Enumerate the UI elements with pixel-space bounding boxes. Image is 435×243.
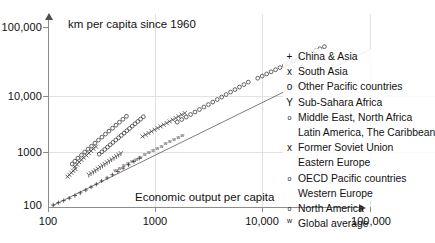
y-tick-label-100: 100	[0, 199, 42, 211]
legend-item-5[interactable]: Latin America, The Caribbean	[283, 125, 435, 140]
y-axis-arrow-icon	[45, 13, 53, 20]
chart-title: km per capita since 1960	[68, 18, 196, 30]
x-tick-label-1000: 1000	[125, 215, 185, 227]
x-tick-100	[48, 207, 49, 212]
series-6	[175, 80, 250, 124]
y-axis	[48, 19, 49, 208]
legend-item-1[interactable]: xSouth Asia	[283, 64, 435, 79]
legend-item-10[interactable]: oNorth America	[283, 201, 435, 216]
legend-label: China & Asia	[296, 51, 358, 62]
legend-marker-cross-icon: x	[283, 142, 296, 153]
legend-marker-wye-icon: Y	[283, 97, 296, 108]
svg-text:w: w	[176, 134, 180, 140]
gridline-x-10000	[262, 14, 263, 207]
x-tick-10000	[262, 207, 263, 212]
x-axis-title: Economic output per capita	[135, 191, 274, 203]
svg-text:w: w	[168, 138, 172, 144]
legend-item-3[interactable]: YSub-Sahara Africa	[283, 95, 435, 110]
svg-text:w: w	[118, 165, 122, 171]
legend-label: Middle East, North Africa	[296, 112, 412, 123]
legend: +China & AsiaxSouth AsiaoOther Pacific c…	[283, 49, 435, 201]
y-tick-label-10000: 10,000	[0, 90, 42, 102]
chart-figure: 100,000 10,000 1000 100 100 1000 10,000 …	[0, 0, 435, 243]
series-2	[70, 114, 128, 166]
series-4	[97, 115, 145, 156]
legend-marker-cross-icon: x	[283, 66, 296, 77]
svg-text:w: w	[155, 145, 159, 151]
legend-label: Eastern Europe	[296, 157, 370, 168]
legend-label: South Asia	[296, 66, 348, 77]
legend-label: Latin America, The Caribbean	[296, 127, 435, 138]
y-tick-label-100000: 100,000	[0, 21, 42, 33]
legend-label: Global average	[296, 218, 368, 229]
y-tick-label-1000: 1000	[0, 146, 42, 158]
legend-marker-circle-icon: o	[283, 81, 296, 92]
series-0	[51, 156, 141, 207]
svg-text:w: w	[126, 160, 130, 166]
svg-text:w: w	[139, 154, 143, 160]
svg-text:w: w	[114, 167, 118, 173]
legend-label: Other Pacific countries	[296, 81, 403, 92]
svg-text:w: w	[164, 140, 168, 146]
legend-marker-small-circle-icon: o	[283, 205, 296, 212]
legend-item-8[interactable]: oOECD Pacific countries	[283, 171, 435, 186]
legend-marker-small-circle-icon: o	[283, 175, 296, 182]
legend-item-7[interactable]: Eastern Europe	[283, 155, 435, 170]
svg-text:w: w	[172, 136, 176, 142]
svg-text:w: w	[130, 158, 134, 164]
series-3	[87, 151, 123, 177]
legend-marker-small-circle-icon: o	[283, 114, 296, 121]
gridline-x-1000	[155, 14, 156, 207]
svg-text:w: w	[135, 156, 139, 162]
x-tick-label-100: 100	[18, 215, 78, 227]
x-tick-1000	[155, 207, 156, 212]
series-1	[66, 145, 98, 179]
legend-label: Western Europe	[296, 188, 373, 199]
legend-item-2[interactable]: oOther Pacific countries	[283, 79, 435, 94]
legend-label: OECD Pacific countries	[296, 173, 407, 184]
legend-label: Sub-Sahara Africa	[296, 97, 382, 108]
legend-item-11[interactable]: wGlobal average	[283, 216, 435, 231]
legend-label: Former Soviet Union	[296, 142, 393, 153]
svg-text:w: w	[181, 132, 185, 138]
legend-item-6[interactable]: xFormer Soviet Union	[283, 140, 435, 155]
legend-item-0[interactable]: +China & Asia	[283, 49, 435, 64]
y-tick-100000	[43, 27, 49, 28]
svg-text:w: w	[160, 143, 164, 149]
y-tick-1000	[43, 152, 49, 153]
series-5	[141, 111, 187, 138]
legend-marker-plus-icon: +	[283, 51, 296, 62]
legend-marker-superscript-icon: w	[283, 217, 296, 224]
legend-item-4[interactable]: oMiddle East, North Africa	[283, 110, 435, 125]
svg-text:w: w	[122, 162, 126, 168]
legend-label: North America	[296, 203, 364, 214]
y-tick-10000	[43, 96, 49, 97]
legend-item-9[interactable]: Western Europe	[283, 186, 435, 201]
